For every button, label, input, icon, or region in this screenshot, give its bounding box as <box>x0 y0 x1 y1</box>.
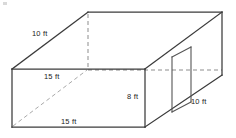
label-depth-lower-right: 10 ft <box>191 98 207 106</box>
label-depth-top-left: 10 ft <box>32 30 48 38</box>
label-width-upper: 15 ft <box>44 73 60 81</box>
door-edge-top <box>172 47 191 57</box>
edge-bottom-right-depth <box>145 75 222 127</box>
geometry-figure: 10 ft 15 ft 8 ft 10 ft 15 ft <box>0 0 236 138</box>
label-height-front: 8 ft <box>127 93 138 101</box>
edge-top-right-depth <box>145 12 222 69</box>
label-width-lower: 15 ft <box>61 118 77 126</box>
edge-top-left-depth <box>12 12 88 69</box>
prism-drawing <box>0 0 236 138</box>
